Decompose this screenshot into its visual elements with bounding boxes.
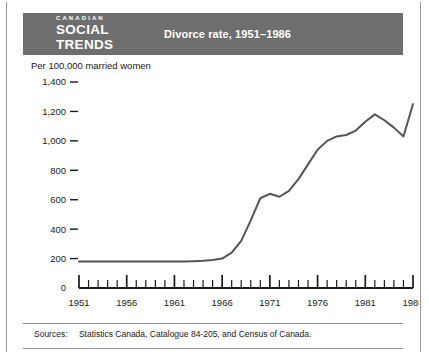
y-tick-label: 800 [50,165,66,176]
line-chart: 02004006008001,0001,2001,400195119561961… [23,60,419,318]
y-tick-label: 0 [61,282,66,293]
x-tick-label: 1986 [402,297,419,308]
bottom-divider [23,348,403,349]
logo-line-social: SOCIAL [56,23,148,38]
x-tick-label: 1971 [259,297,280,308]
y-tick-label: 600 [50,194,66,205]
plot-area: Per 100,000 married women 02004006008001… [23,60,419,318]
x-tick-label: 1961 [164,297,185,308]
chart-header-bar: CANADIAN SOCIAL TRENDS Divorce rate, 195… [23,13,403,55]
footer-divider [23,323,403,324]
sources-text: Statistics Canada, Catalogue 84-205, and… [79,329,311,339]
figure-frame: CANADIAN SOCIAL TRENDS Divorce rate, 195… [6,2,421,352]
sources-label: Sources: [34,329,68,339]
y-tick-label: 200 [50,253,66,264]
x-tick-label: 1956 [116,297,137,308]
data-series-line [79,104,413,261]
y-tick-label: 1,400 [42,76,66,87]
x-tick-label: 1951 [68,297,89,308]
y-tick-label: 400 [50,224,66,235]
chart-title: Divorce rate, 1951–1986 [164,28,291,40]
x-tick-label: 1966 [212,297,233,308]
x-tick-label: 1981 [355,297,376,308]
sources-row: Sources: Statistics Canada, Catalogue 84… [34,329,311,339]
logo-line-canadian: CANADIAN [56,15,148,21]
logo-line-trends: TRENDS [56,38,148,53]
y-tick-label: 1,200 [42,106,66,117]
y-tick-label: 1,000 [42,135,66,146]
publication-logo: CANADIAN SOCIAL TRENDS [56,15,148,52]
x-tick-label: 1976 [307,297,328,308]
